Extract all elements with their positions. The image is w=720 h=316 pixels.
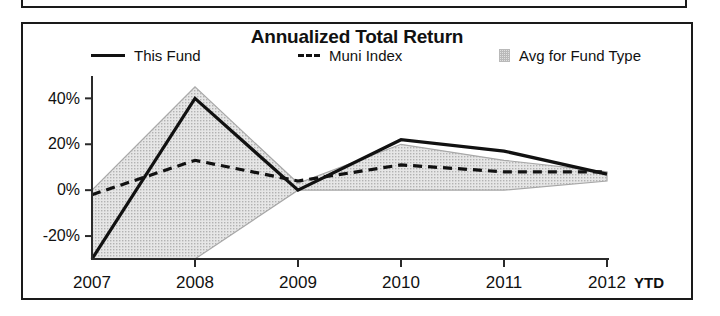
x-tick-label: 2012 [588, 273, 626, 292]
x-tick-label: 2011 [486, 273, 523, 292]
y-tick-label: 40% [48, 90, 80, 107]
annualized-total-return-chart-panel: Annualized Total Return This Fund Muni I… [21, 22, 693, 300]
y-tick-label: 20% [48, 135, 80, 152]
y-axis-tick-labels: 40%20%0%-20% [43, 90, 80, 245]
x-axis-ytd-label: YTD [634, 274, 664, 291]
series-band-avg-fund-type [92, 87, 607, 259]
y-tick-label: 0% [57, 181, 80, 198]
chart-plot-svg: 40%20%0%-20% 200720082009201020112012YTD [23, 24, 691, 298]
x-tick-label: 2007 [73, 273, 111, 292]
top-partial-panel [21, 0, 687, 8]
x-axis-tick-labels: 200720082009201020112012YTD [73, 273, 664, 292]
x-tick-label: 2009 [279, 273, 317, 292]
x-tick-label: 2008 [176, 273, 214, 292]
plot-area: 40%20%0%-20% 200720082009201020112012YTD [23, 24, 691, 298]
y-tick-label: -20% [43, 227, 80, 244]
x-tick-label: 2010 [382, 273, 420, 292]
